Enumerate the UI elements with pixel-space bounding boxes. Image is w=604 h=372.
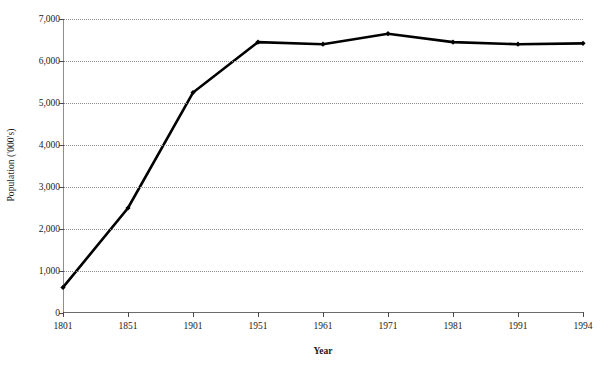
data-point-marker: [320, 42, 325, 47]
gridline: [63, 187, 583, 188]
y-axis-tick-label: 3,000: [14, 182, 60, 192]
gridline: [63, 229, 583, 230]
x-axis-tick-label: 1971: [358, 320, 418, 332]
x-axis-tick-labels: 180118511901195119611971198119911994: [63, 320, 583, 334]
x-axis-tick-mark: [128, 312, 129, 317]
x-axis-tick-mark: [453, 312, 454, 317]
gridline: [63, 19, 583, 20]
x-axis-tick-label: 1801: [33, 320, 93, 332]
y-axis-tick-label: 4,000: [14, 140, 60, 150]
x-axis-tick-mark: [258, 312, 259, 317]
gridline: [63, 271, 583, 272]
plot-area: [63, 19, 583, 313]
x-axis-title: Year: [63, 345, 583, 357]
y-axis-tick-label: 1,000: [14, 266, 60, 276]
series-polyline: [63, 34, 583, 288]
x-axis-tick-label: 1961: [293, 320, 353, 332]
y-axis-tick-label: 0: [14, 308, 60, 318]
x-axis-tick-label: 1901: [163, 320, 223, 332]
gridline: [63, 145, 583, 146]
y-axis-tick-mark: [59, 61, 64, 62]
x-axis-tick-label: 1994: [553, 320, 604, 332]
data-point-marker: [580, 41, 585, 46]
y-axis-tick-mark: [59, 103, 64, 104]
y-axis-tick-label: 7,000: [14, 14, 60, 24]
x-axis-tick-label: 1981: [423, 320, 483, 332]
x-axis-tick-mark: [193, 312, 194, 317]
y-axis-tick-label: 2,000: [14, 224, 60, 234]
x-axis-tick-label: 1951: [228, 320, 288, 332]
y-axis-tick-label: 6,000: [14, 56, 60, 66]
gridline: [63, 61, 583, 62]
y-axis-tick-mark: [59, 187, 64, 188]
y-axis-tick-label: 5,000: [14, 98, 60, 108]
y-axis-tick-mark: [59, 229, 64, 230]
y-axis-tick-mark: [59, 271, 64, 272]
x-axis-tick-mark: [388, 312, 389, 317]
y-axis-tick-mark: [59, 145, 64, 146]
data-point-marker: [385, 31, 390, 36]
data-series-line: [63, 19, 583, 313]
x-axis-tick-mark: [518, 312, 519, 317]
x-axis-tick-label: 1851: [98, 320, 158, 332]
population-line-chart: Population ('000's) 7,0006,0005,0004,000…: [0, 0, 604, 372]
gridline: [63, 103, 583, 104]
x-axis-tick-mark: [323, 312, 324, 317]
data-point-marker: [450, 40, 455, 45]
y-axis-tick-labels: 7,0006,0005,0004,0003,0002,0001,0000: [12, 0, 60, 372]
x-axis-tick-mark: [63, 312, 64, 317]
y-axis-tick-mark: [59, 19, 64, 20]
x-axis-tick-label: 1991: [488, 320, 548, 332]
x-axis-tick-mark: [583, 312, 584, 317]
data-point-marker: [515, 42, 520, 47]
